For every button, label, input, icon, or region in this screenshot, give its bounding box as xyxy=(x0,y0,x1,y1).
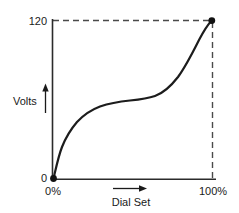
y-axis-title: Volts xyxy=(13,95,37,107)
x-axis-title: Dial Set xyxy=(112,196,151,208)
voltage-dial-chart: 120 0 0% 100% Volts Dial Set xyxy=(0,0,239,213)
y-axis-min-tick-label: 0 xyxy=(41,172,47,184)
y-axis-max-tick-label: 120 xyxy=(29,15,47,27)
max-point-marker xyxy=(208,17,215,24)
x-axis-max-tick-label: 100% xyxy=(199,185,227,197)
origin-point-marker xyxy=(50,175,57,182)
x-axis-min-tick-label: 0% xyxy=(45,185,61,197)
